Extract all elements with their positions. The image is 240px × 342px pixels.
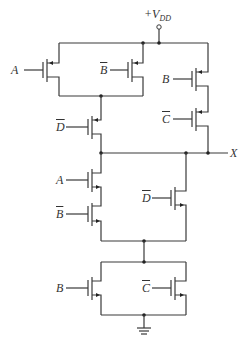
cmos-schematic: +VDD X A B D B C A B D B C xyxy=(0,0,240,342)
input-label-n1: A xyxy=(56,174,63,186)
nmos-transistor-b xyxy=(66,262,101,315)
pmos-transistor-a xyxy=(24,43,59,96)
input-label-n3: D xyxy=(142,192,151,204)
nmos-transistor-d-bar xyxy=(152,153,186,241)
pmos-transistor-d-bar xyxy=(66,96,101,153)
vdd-terminal-icon xyxy=(157,25,161,29)
output-label-x: X xyxy=(230,147,237,159)
input-label-n2: B xyxy=(56,208,63,220)
circuit-wires xyxy=(0,0,240,342)
input-label-p2: B xyxy=(100,64,107,76)
input-label-p4: B xyxy=(162,73,169,85)
input-label-n4: B xyxy=(56,282,63,294)
input-label-n5: C xyxy=(142,282,150,294)
nmos-transistor-c-bar xyxy=(152,262,186,315)
ground-icon xyxy=(137,315,151,334)
pmos-transistor-b xyxy=(173,43,208,112)
input-label-p1: A xyxy=(11,64,18,76)
pmos-transistor-b-bar xyxy=(110,43,143,96)
vdd-label: +VDD xyxy=(144,8,171,23)
input-label-p5: C xyxy=(162,113,170,125)
nmos-transistor-a xyxy=(66,153,101,206)
pmos-transistor-c-bar xyxy=(173,108,208,153)
input-label-p3: D xyxy=(56,121,65,133)
nmos-transistor-b-bar xyxy=(66,203,101,241)
